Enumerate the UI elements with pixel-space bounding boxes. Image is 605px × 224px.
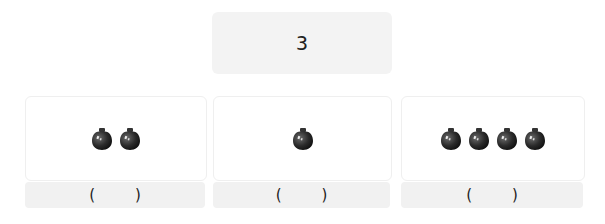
open-paren: (: [276, 186, 282, 204]
apple-icon: [119, 127, 141, 151]
open-paren: (: [466, 186, 472, 204]
close-paren: ): [135, 186, 141, 204]
apple-icon: [292, 127, 314, 151]
apple-icon: [440, 127, 462, 151]
apple-group-card-2: [213, 96, 392, 181]
apple-group-card-3: [401, 96, 585, 181]
close-paren: ): [512, 186, 518, 204]
target-number: 3: [296, 31, 308, 55]
apple-group-card-1: [25, 96, 207, 181]
apple-icon: [468, 127, 490, 151]
target-number-box: 3: [212, 12, 392, 74]
apple-icon: [496, 127, 518, 151]
apple-icon: [524, 127, 546, 151]
answer-slot-2[interactable]: ( ): [213, 182, 390, 208]
apple-icon: [91, 127, 113, 151]
open-paren: (: [89, 186, 95, 204]
answer-slot-1[interactable]: ( ): [25, 182, 205, 208]
close-paren: ): [322, 186, 328, 204]
answer-slot-3[interactable]: ( ): [401, 182, 583, 208]
